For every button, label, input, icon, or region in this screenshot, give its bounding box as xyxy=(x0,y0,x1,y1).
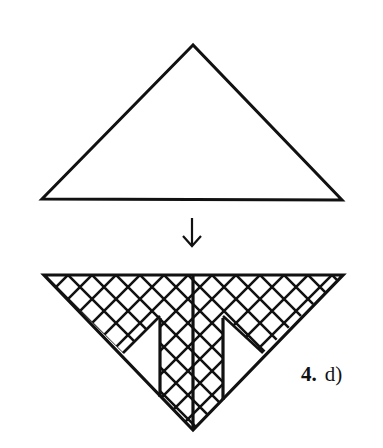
figure-label: 4.d) xyxy=(301,362,342,387)
crosshatch-fill xyxy=(40,270,350,440)
top-triangle xyxy=(42,45,342,200)
figure-letter: d) xyxy=(325,362,343,386)
figure-number: 4. xyxy=(301,362,317,386)
down-arrow-icon xyxy=(183,218,201,246)
